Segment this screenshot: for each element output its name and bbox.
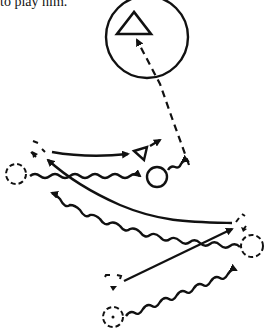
defender-start-right-icon <box>236 214 247 232</box>
defender-recovery-run-arrow <box>48 160 232 223</box>
dribble-path-lower-to-right <box>126 270 236 317</box>
attacker-ball-icon <box>147 167 167 187</box>
play-diagram <box>0 0 268 332</box>
target-goal <box>106 0 188 78</box>
defender-mid-icon <box>134 140 160 160</box>
defender-lower-run-arrow <box>124 229 232 281</box>
attacker-start-left-icon <box>6 164 26 184</box>
defender-start-upper-icon <box>31 141 45 158</box>
defender-run-arrow <box>52 152 128 156</box>
dribble-path-to-ball <box>30 174 140 178</box>
dribble-path-ball-up <box>168 160 188 170</box>
defender-start-lower-icon <box>105 275 121 291</box>
attacker-start-lower-icon <box>103 307 123 327</box>
attacker-start-right-icon <box>241 235 263 257</box>
